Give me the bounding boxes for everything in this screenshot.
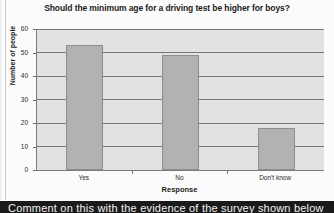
- x-axis-label: Response: [36, 185, 323, 194]
- bar: [162, 55, 199, 170]
- chart-title: Should the minimum age for a driving tes…: [0, 3, 334, 13]
- plot-area: [36, 29, 324, 171]
- y-tick-label: 10: [0, 143, 28, 150]
- y-tick-label: 0: [0, 166, 28, 173]
- y-tick-label: 20: [0, 119, 28, 126]
- x-tick-label: Yes: [44, 174, 124, 181]
- chart-screenshot: Should the minimum age for a driving tes…: [0, 0, 334, 213]
- x-tick-label: Don't know: [235, 174, 315, 181]
- x-tick-mark: [132, 171, 133, 174]
- gridline: [37, 29, 324, 30]
- x-tick-mark: [227, 171, 228, 174]
- bar: [258, 128, 295, 170]
- bar: [66, 45, 103, 170]
- x-tick-label: No: [140, 174, 220, 181]
- plot-inner: [37, 29, 324, 170]
- caption-strip: Comment on this with the evidence of the…: [0, 201, 334, 213]
- caption-text: Comment on this with the evidence of the…: [8, 202, 324, 213]
- y-axis-label: Number of people: [9, 6, 16, 106]
